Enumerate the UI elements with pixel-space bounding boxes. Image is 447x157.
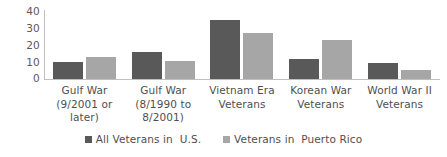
bar-group (203, 11, 282, 79)
bar-pr (401, 70, 431, 79)
x-label-vietnam-era: Vietnam Era Veterans (203, 84, 282, 128)
y-tick-label: 0 (2, 73, 40, 84)
bar-pr (86, 57, 116, 79)
legend-swatch-icon (85, 136, 92, 143)
legend-item-all-veterans-us: All Veterans in U.S. (85, 133, 201, 145)
bar-group (45, 11, 124, 79)
x-label-world-war-ii: World War II Veterans (360, 84, 439, 128)
legend-label: Veterans in Puerto Rico (234, 133, 362, 145)
x-label-gulf-war-1990: Gulf War (8/1990 to 8/2001) (124, 84, 203, 128)
x-label-gulf-war-2001: Gulf War (9/2001 or later) (45, 84, 124, 128)
chart-legend: All Veterans in U.S. Veterans in Puerto … (0, 133, 447, 145)
x-axis-category-labels: Gulf War (9/2001 or later) Gulf War (8/1… (45, 84, 439, 128)
y-tick-label: 30 (2, 23, 40, 34)
y-tick-label: 20 (2, 40, 40, 51)
legend-label: All Veterans in U.S. (96, 133, 201, 145)
bar-pr (165, 61, 195, 79)
bar-us (289, 59, 319, 79)
legend-item-veterans-puerto-rico: Veterans in Puerto Rico (223, 133, 362, 145)
y-tick-label: 40 (2, 6, 40, 17)
y-tick-label: 10 (2, 57, 40, 68)
bar-us (210, 20, 240, 80)
bar-pr (243, 33, 273, 79)
legend-swatch-icon (223, 136, 230, 143)
bar-us (368, 63, 398, 79)
bar-us (132, 52, 162, 79)
bar-group (124, 11, 203, 79)
bar-group (360, 11, 439, 79)
bar-groups (45, 11, 439, 79)
x-label-korean-war: Korean War Veterans (281, 84, 360, 128)
bar-chart: 40 30 20 10 0 Gulf War (9/2001 (0, 0, 447, 157)
bar-pr (322, 40, 352, 79)
bar-us (53, 62, 83, 79)
bar-group (281, 11, 360, 79)
x-axis-line (44, 79, 440, 80)
